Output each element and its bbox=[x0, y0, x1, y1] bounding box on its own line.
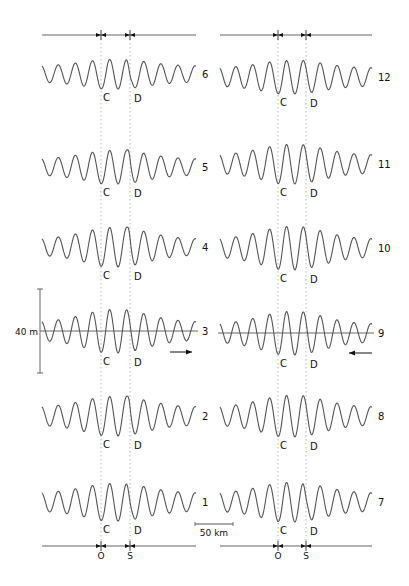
marker-label-c: C bbox=[103, 356, 110, 367]
profile-trace-10 bbox=[220, 227, 372, 270]
marker-label-d: D bbox=[134, 271, 142, 282]
label-s: S bbox=[127, 551, 133, 561]
marker-label-d: D bbox=[134, 357, 142, 368]
scale-bars: 40 m50 km bbox=[15, 289, 233, 538]
profile-trace-1 bbox=[42, 484, 196, 522]
axis-tick-arrow bbox=[273, 33, 278, 37]
marker-label-c: C bbox=[103, 439, 110, 450]
profile-trace-11 bbox=[220, 145, 372, 184]
label-s: S bbox=[303, 551, 309, 561]
axis-tick-arrow bbox=[130, 33, 135, 37]
trace-number-1: 1 bbox=[202, 497, 208, 508]
axis-tick-arrow bbox=[306, 33, 311, 37]
trace-number-6: 6 bbox=[202, 69, 208, 80]
marker-label-d: D bbox=[310, 526, 318, 537]
label-o: O bbox=[97, 551, 104, 561]
profile-trace-6 bbox=[42, 60, 196, 90]
reference-dotted-lines bbox=[101, 39, 306, 542]
marker-label-d: D bbox=[310, 274, 318, 285]
axis-tick-arrow bbox=[278, 544, 283, 548]
marker-label-d: D bbox=[134, 525, 142, 536]
marker-label-d: D bbox=[134, 440, 142, 451]
label-o: O bbox=[274, 551, 281, 561]
direction-arrow-right-icon bbox=[186, 350, 192, 355]
marker-label-d: D bbox=[310, 98, 318, 109]
axis-tick-arrow bbox=[273, 544, 278, 548]
profile-trace-4 bbox=[42, 227, 196, 267]
profile-trace-12 bbox=[220, 61, 372, 94]
trace-number-12: 12 bbox=[378, 72, 391, 83]
direction-arrow-left-icon bbox=[349, 351, 355, 356]
profile-trace-7 bbox=[220, 483, 372, 522]
marker-label-c: C bbox=[280, 97, 287, 108]
marker-label-d: D bbox=[310, 188, 318, 199]
marker-label-d: D bbox=[310, 441, 318, 452]
direction-arrows bbox=[170, 350, 372, 356]
profile-figure: OS6CD5CD4CD3CD2CD1CDOS12CD11CD10CD9CD8CD… bbox=[0, 0, 409, 586]
marker-label-c: C bbox=[103, 187, 110, 198]
axis-tick-arrow bbox=[301, 33, 306, 37]
trace-number-8: 8 bbox=[378, 411, 384, 422]
marker-label-d: D bbox=[134, 188, 142, 199]
vertical-scale-label: 40 m bbox=[15, 327, 38, 337]
profile-traces bbox=[42, 60, 372, 522]
marker-label-d: D bbox=[310, 359, 318, 370]
axis-tick-arrow bbox=[301, 544, 306, 548]
horizontal-scale-label: 50 km bbox=[200, 528, 228, 538]
trace-number-7: 7 bbox=[378, 497, 384, 508]
marker-label-d: D bbox=[134, 93, 142, 104]
trace-number-5: 5 bbox=[202, 162, 208, 173]
trace-number-2: 2 bbox=[202, 411, 208, 422]
axis-tick-arrow bbox=[125, 544, 130, 548]
marker-label-c: C bbox=[280, 273, 287, 284]
marker-label-c: C bbox=[103, 92, 110, 103]
axis-tick-arrow bbox=[101, 33, 106, 37]
axis-tick-arrow bbox=[130, 544, 135, 548]
axis-tick-arrow bbox=[125, 33, 130, 37]
marker-label-c: C bbox=[103, 524, 110, 535]
profile-trace-5 bbox=[42, 150, 196, 184]
trace-number-9: 9 bbox=[378, 328, 384, 339]
marker-label-c: C bbox=[280, 440, 287, 451]
axis-tick-arrow bbox=[101, 544, 106, 548]
trace-number-3: 3 bbox=[202, 326, 208, 337]
marker-label-c: C bbox=[280, 187, 287, 198]
trace-labels: OS6CD5CD4CD3CD2CD1CDOS12CD11CD10CD9CD8CD… bbox=[97, 69, 390, 561]
trace-number-11: 11 bbox=[378, 159, 391, 170]
marker-label-c: C bbox=[103, 270, 110, 281]
trace-number-10: 10 bbox=[378, 243, 391, 254]
boundary-axes bbox=[42, 30, 372, 551]
marker-label-c: C bbox=[280, 525, 287, 536]
axis-tick-arrow bbox=[96, 544, 101, 548]
trace-number-4: 4 bbox=[202, 242, 208, 253]
profile-trace-8 bbox=[220, 396, 372, 437]
axis-tick-arrow bbox=[96, 33, 101, 37]
axis-tick-arrow bbox=[278, 33, 283, 37]
axis-tick-arrow bbox=[306, 544, 311, 548]
profile-trace-2 bbox=[42, 396, 196, 436]
marker-label-c: C bbox=[280, 358, 287, 369]
